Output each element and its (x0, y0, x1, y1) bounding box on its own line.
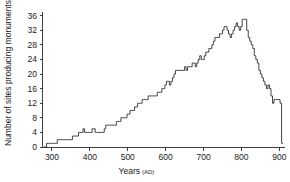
x-axis-title-suffix: (AD) (142, 169, 154, 175)
y-tick-label: 24 (28, 54, 38, 64)
y-tick-label: 8 (32, 113, 37, 123)
y-tick-label: 4 (32, 127, 37, 137)
monuments-line-chart: 04812162024283236 300400500600700800900 … (0, 0, 290, 182)
y-tick-label: 32 (28, 25, 38, 35)
x-axis-ticks (52, 147, 279, 151)
y-axis-group: 04812162024283236 (28, 11, 43, 152)
y-tick-label: 28 (28, 40, 38, 50)
x-tick-label: 600 (159, 152, 173, 162)
x-axis-tick-labels: 300400500600700800900 (45, 152, 287, 162)
chart-figure: 04812162024283236 300400500600700800900 … (0, 0, 290, 182)
x-axis-group: 300400500600700800900 (43, 147, 287, 162)
y-axis-tick-labels: 04812162024283236 (28, 11, 38, 152)
y-tick-label: 36 (28, 11, 38, 21)
x-axis-title: Years (119, 166, 140, 176)
y-tick-label: 0 (32, 142, 37, 152)
x-tick-label: 900 (272, 152, 286, 162)
y-tick-label: 20 (28, 69, 38, 79)
x-tick-label: 700 (196, 152, 210, 162)
x-tick-label: 300 (45, 152, 59, 162)
y-axis-title: Number of sites producing monuments (3, 0, 13, 146)
y-tick-label: 16 (28, 84, 38, 94)
y-tick-label: 12 (28, 98, 38, 108)
data-series-line (44, 19, 283, 147)
x-tick-label: 500 (121, 152, 135, 162)
x-tick-label: 400 (83, 152, 97, 162)
x-tick-label: 800 (234, 152, 248, 162)
